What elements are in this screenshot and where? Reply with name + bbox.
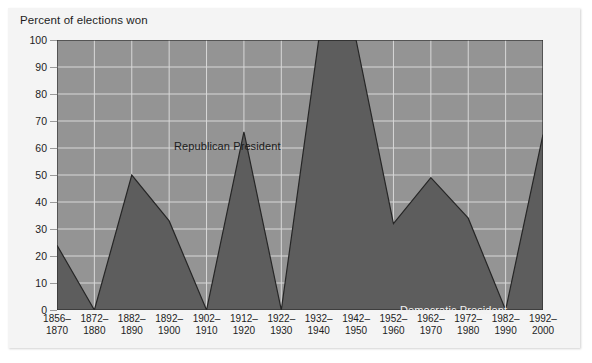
y-axis-tick-mark — [50, 283, 57, 284]
y-axis-tick-mark — [50, 256, 57, 257]
plot-area: Republican President Democratic Presiden… — [57, 40, 543, 310]
y-axis-tick-label: 90 — [11, 61, 57, 73]
y-axis-tick-mark — [50, 310, 57, 311]
y-axis-tick-label: 80 — [11, 88, 57, 100]
y-axis-tick-label: 40 — [11, 196, 57, 208]
y-axis-tick-mark — [50, 94, 57, 95]
y-axis-tick-mark — [50, 202, 57, 203]
y-axis-tick-label: 50 — [11, 169, 57, 181]
axis-title: Percent of elections won — [20, 14, 148, 26]
x-axis: 1856–18701872–18801882–18901892–19001902… — [57, 313, 543, 347]
y-axis-tick-label: 10 — [11, 277, 57, 289]
x-axis-tick-label-line2: 2000 — [515, 325, 571, 337]
y-axis-tick-mark — [50, 121, 57, 122]
y-axis-tick-label: 30 — [11, 223, 57, 235]
y-axis: 0102030405060708090100 — [8, 40, 57, 310]
y-axis-tick-mark — [50, 40, 57, 41]
y-axis-tick-mark — [50, 148, 57, 149]
y-axis-tick-label: 70 — [11, 115, 57, 127]
y-axis-tick-label: 20 — [11, 250, 57, 262]
y-axis-tick-mark — [50, 229, 57, 230]
y-axis-tick-mark — [50, 67, 57, 68]
annotation-republican-president: Republican President — [174, 140, 281, 152]
area-chart-svg — [57, 40, 543, 310]
chart-figure: Percent of elections won 010203040506070… — [8, 8, 580, 348]
y-axis-tick-label: 60 — [11, 142, 57, 154]
y-axis-tick-mark — [50, 175, 57, 176]
x-axis-tick-label: 1992–2000 — [515, 313, 571, 336]
x-axis-tick-label-line1: 1992– — [515, 313, 571, 325]
y-axis-tick-label: 100 — [11, 34, 57, 46]
